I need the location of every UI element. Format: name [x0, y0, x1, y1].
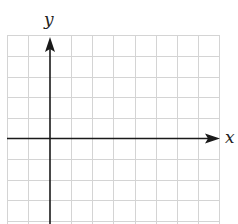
y-axis: [45, 37, 55, 224]
y-axis-label: y: [43, 9, 54, 29]
grid-lines: [7, 35, 220, 224]
coordinate-plane: x y: [0, 0, 238, 224]
x-axis-label: x: [225, 127, 235, 147]
